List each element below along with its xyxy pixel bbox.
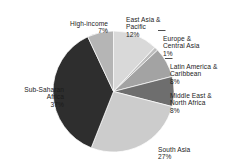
slice-label-south-asia-value: 27% (158, 153, 232, 161)
slice-label-middle-east-north-africa-name: Middle East & North Africa (170, 92, 212, 107)
slice-label-south-asia-name: South Asia (158, 146, 190, 153)
slice-label-middle-east-north-africa: Middle East & North Africa 8% (170, 84, 238, 122)
slice-label-europe-central-asia-name: Europe & Central Asia (163, 35, 200, 50)
slice-label-middle-east-north-africa-value: 8% (170, 107, 238, 115)
slice-label-high-income-name: High-income (70, 20, 108, 27)
slice-label-sub-saharan-africa: Sub-Saharan Africa 37% (2, 78, 64, 116)
slice-label-sub-saharan-africa-value: 37% (2, 101, 64, 109)
slice-label-latin-america-caribbean-name: Latin America & Caribbean (170, 63, 217, 78)
slice-label-high-income-value: 7% (42, 27, 108, 35)
slice-label-east-asia-pacific-name: East Asia & Pacific (126, 16, 161, 31)
slice-label-sub-saharan-africa-name: Sub-Saharan Africa (24, 86, 64, 101)
slice-label-high-income: High-income 7% (42, 12, 108, 42)
pie-slices-group (53, 31, 174, 152)
pie-chart-figure: High-income 7% East Asia & Pacific 12% E… (0, 0, 238, 168)
slice-label-south-asia: South Asia 27% (158, 138, 232, 168)
